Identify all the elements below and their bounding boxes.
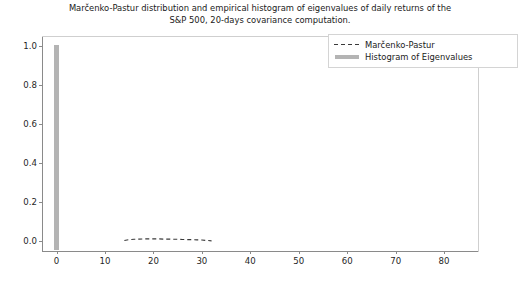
x-tick-label: 30 xyxy=(196,256,207,266)
chart-title: Marčenko-Pastur distribution and empiric… xyxy=(42,2,478,26)
y-tick-label: 0.8 xyxy=(23,80,37,90)
y-tick-label: 1.0 xyxy=(23,41,37,51)
x-tick-label: 80 xyxy=(439,256,450,266)
y-tick-label: 0.0 xyxy=(23,236,37,246)
x-tick-label: 0 xyxy=(54,256,59,266)
x-tick-label: 40 xyxy=(245,256,256,266)
axis-spine-right xyxy=(478,36,479,252)
legend-label-histogram: Histogram of Eigenvalues xyxy=(365,52,472,62)
y-tick-label: 0.6 xyxy=(23,119,37,129)
filled-bar-icon xyxy=(334,52,360,62)
marcenko-pastur-curve xyxy=(42,36,478,252)
dashed-line-icon xyxy=(334,40,360,50)
x-tick-label: 50 xyxy=(293,256,304,266)
x-tick-label: 60 xyxy=(342,256,353,266)
legend-item-marcenko-pastur: Marčenko-Pastur xyxy=(334,39,511,51)
chart-legend: Marčenko-Pastur Histogram of Eigenvalues xyxy=(328,34,518,68)
legend-item-histogram: Histogram of Eigenvalues xyxy=(334,51,511,63)
y-tick-label: 0.2 xyxy=(23,197,37,207)
y-tick-label: 0.4 xyxy=(23,158,37,168)
plot-area: 0.00.20.40.60.81.0 01020304050607080 Mar… xyxy=(42,36,478,251)
legend-label-marcenko-pastur: Marčenko-Pastur xyxy=(365,40,435,50)
x-tick-label: 20 xyxy=(148,256,159,266)
x-tick-label: 10 xyxy=(100,256,111,266)
x-tick-label: 70 xyxy=(390,256,401,266)
